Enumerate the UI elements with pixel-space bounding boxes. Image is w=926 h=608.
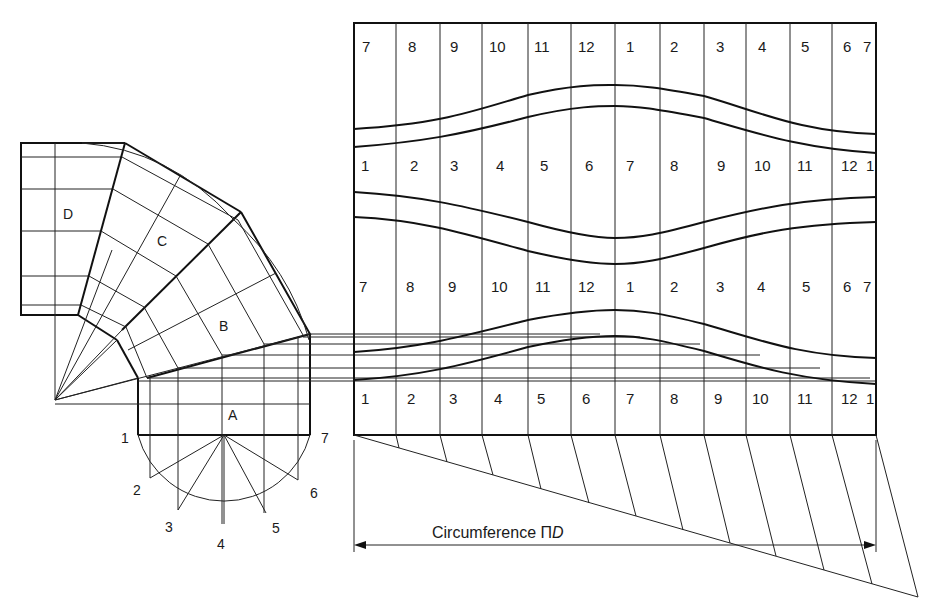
svg-text:1: 1 [866,157,874,174]
svg-text:1: 1 [866,390,874,407]
svg-text:1: 1 [361,390,369,407]
svg-text:9: 9 [717,157,725,174]
svg-text:11: 11 [535,278,551,295]
segment-label-d: D [63,206,73,222]
segment-c [55,143,241,400]
svg-text:6: 6 [843,38,851,55]
svg-text:9: 9 [714,390,722,407]
point-label-5: 5 [272,520,280,536]
svg-text:7: 7 [626,157,634,174]
svg-text:10: 10 [754,157,771,174]
svg-text:2: 2 [410,157,418,174]
svg-text:12: 12 [578,278,595,295]
svg-text:4: 4 [494,390,502,407]
svg-text:4: 4 [496,157,504,174]
svg-text:2: 2 [670,38,678,55]
svg-text:3: 3 [450,157,458,174]
svg-text:10: 10 [491,278,508,295]
svg-text:4: 4 [757,278,765,295]
segment-label-a: A [228,407,238,423]
pattern-row-4: 1 2 3 4 5 6 7 8 9 10 11 12 1 [361,390,874,407]
svg-text:7: 7 [359,278,367,295]
segment-label-c: C [157,233,167,249]
svg-text:5: 5 [537,390,545,407]
svg-text:10: 10 [752,390,769,407]
stepoff-triangle [354,435,918,597]
svg-text:3: 3 [716,278,724,295]
segment-label-b: B [219,318,228,334]
pattern-row-1: 7 8 9 10 11 12 1 2 3 4 5 6 7 [362,38,871,55]
development-pattern: 7 8 9 10 11 12 1 2 3 4 5 6 7 1 2 3 4 5 6… [354,23,876,435]
elbow-development-diagram: D C B A 1 2 3 4 5 6 7 [0,0,926,608]
arrow-left-icon [354,541,366,549]
svg-text:6: 6 [843,278,851,295]
circumference-label: Circumference ΠD [432,524,564,541]
svg-text:3: 3 [716,38,724,55]
svg-text:8: 8 [406,278,414,295]
svg-text:7: 7 [626,390,634,407]
svg-text:1: 1 [361,157,369,174]
svg-text:8: 8 [670,390,678,407]
svg-text:7: 7 [863,38,871,55]
svg-text:4: 4 [758,38,766,55]
svg-text:2: 2 [407,390,415,407]
segment-d [21,143,125,400]
svg-text:11: 11 [534,38,550,55]
svg-text:8: 8 [408,38,416,55]
svg-text:6: 6 [585,157,593,174]
svg-text:1: 1 [626,38,634,55]
svg-text:3: 3 [449,390,457,407]
svg-text:12: 12 [578,38,595,55]
point-label-1: 1 [121,430,129,446]
svg-text:5: 5 [802,278,810,295]
svg-text:7: 7 [362,38,370,55]
circumference-dimension: Circumference ΠD [354,440,876,552]
svg-text:10: 10 [489,38,506,55]
svg-text:7: 7 [863,278,871,295]
svg-text:12: 12 [841,157,858,174]
pattern-row-2: 1 2 3 4 5 6 7 8 9 10 11 12 1 [361,157,874,174]
svg-text:12: 12 [841,390,858,407]
arrow-right-icon [864,541,876,549]
segment-b [55,212,310,400]
svg-text:5: 5 [540,157,548,174]
svg-text:9: 9 [450,38,458,55]
point-label-3: 3 [165,519,173,535]
svg-text:6: 6 [582,390,590,407]
svg-text:9: 9 [448,278,456,295]
point-label-2: 2 [133,482,141,498]
svg-text:8: 8 [670,157,678,174]
svg-text:1: 1 [626,278,634,295]
svg-text:11: 11 [797,390,813,407]
svg-text:2: 2 [670,278,678,295]
point-label-4: 4 [217,536,225,552]
point-label-7: 7 [321,430,329,446]
svg-text:11: 11 [797,157,813,174]
point-label-6: 6 [310,485,318,501]
svg-text:5: 5 [801,38,809,55]
